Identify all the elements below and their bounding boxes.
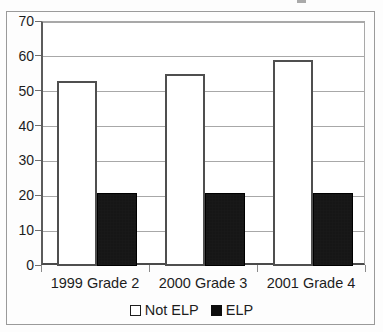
bar-not-elp-1 [165, 74, 205, 266]
legend-item-not-elp[interactable]: Not ELP [130, 303, 199, 318]
bar-not-elp-2 [273, 60, 313, 266]
y-axis-tick [35, 160, 41, 161]
x-axis-separator [41, 265, 42, 272]
open-square-icon [130, 305, 141, 316]
y-axis-labels: 010203040506070 [0, 21, 34, 265]
legend-label: ELP [226, 303, 253, 318]
y-axis-tick [35, 55, 41, 56]
filled-square-icon [211, 305, 222, 316]
y-axis-tick [35, 125, 41, 126]
legend-label: Not ELP [145, 303, 199, 318]
x-axis-category-label-0: 1999 Grade 2 [41, 272, 149, 294]
chart-legend: Not ELPELP [0, 303, 383, 318]
y-axis-tick [35, 230, 41, 231]
y-axis-tick-label: 60 [4, 49, 34, 63]
y-axis-tick-label: 40 [4, 119, 34, 133]
gridline [43, 22, 364, 23]
x-axis-separator [149, 265, 150, 272]
bar-elp-1 [205, 193, 245, 266]
legend-item-elp[interactable]: ELP [211, 303, 253, 318]
x-axis-category-label-2: 2001 Grade 4 [257, 272, 365, 294]
y-axis-tick [35, 195, 41, 196]
gridline [43, 56, 364, 57]
scan-artifact [297, 0, 306, 3]
bar-chart-figure: 010203040506070 1999 Grade 22000 Grade 3… [0, 0, 383, 332]
y-axis-tick [35, 90, 41, 91]
y-axis-tick-label: 20 [4, 188, 34, 202]
y-axis-tick-label: 70 [4, 14, 34, 28]
y-axis-tick-label: 50 [4, 84, 34, 98]
x-axis-labels: 1999 Grade 22000 Grade 32001 Grade 4 [41, 272, 365, 294]
y-axis-tick [35, 21, 41, 22]
plot-area [41, 21, 365, 265]
y-axis-tick-label: 0 [4, 258, 34, 272]
y-axis-tick-label: 10 [4, 223, 34, 237]
bar-not-elp-0 [57, 81, 97, 266]
bar-elp-2 [313, 193, 353, 266]
bar-elp-0 [97, 193, 137, 266]
y-axis-tick-label: 30 [4, 153, 34, 167]
x-axis-separator [365, 265, 366, 272]
x-axis-separator [257, 265, 258, 272]
x-axis-category-label-1: 2000 Grade 3 [149, 272, 257, 294]
